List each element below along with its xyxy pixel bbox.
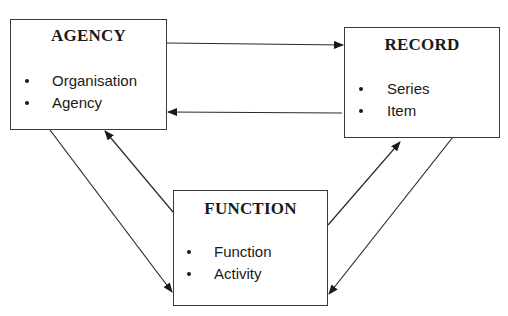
item-label: Function — [214, 241, 272, 263]
arrow-function-to-agency — [105, 131, 173, 212]
arrow-record-to-function — [329, 137, 453, 294]
agency-box: AGENCY Organisation Agency — [10, 19, 167, 130]
arrow-agency-to-record — [167, 43, 343, 45]
record-box: RECORD Series Item — [344, 27, 500, 138]
item-label: Series — [387, 78, 430, 100]
bullet-icon — [25, 101, 29, 105]
bullet-icon — [187, 272, 191, 276]
arrow-agency-to-function — [50, 130, 172, 292]
item-label: Item — [387, 100, 416, 122]
bullet-icon — [187, 250, 191, 254]
function-box: FUNCTION Function Activity — [173, 190, 328, 306]
bullet-icon — [359, 87, 363, 91]
agency-title: AGENCY — [11, 26, 166, 46]
item-label: Agency — [52, 92, 102, 114]
entity-relationship-diagram: AGENCY Organisation Agency RECORD Series… — [0, 0, 508, 316]
bullet-icon — [359, 109, 363, 113]
bullet-icon — [25, 79, 29, 83]
function-title: FUNCTION — [174, 199, 327, 219]
record-title: RECORD — [345, 35, 499, 55]
item-label: Organisation — [52, 70, 137, 92]
item-label: Activity — [214, 263, 262, 285]
arrow-function-to-record — [328, 142, 400, 225]
arrow-record-to-agency — [168, 112, 342, 113]
